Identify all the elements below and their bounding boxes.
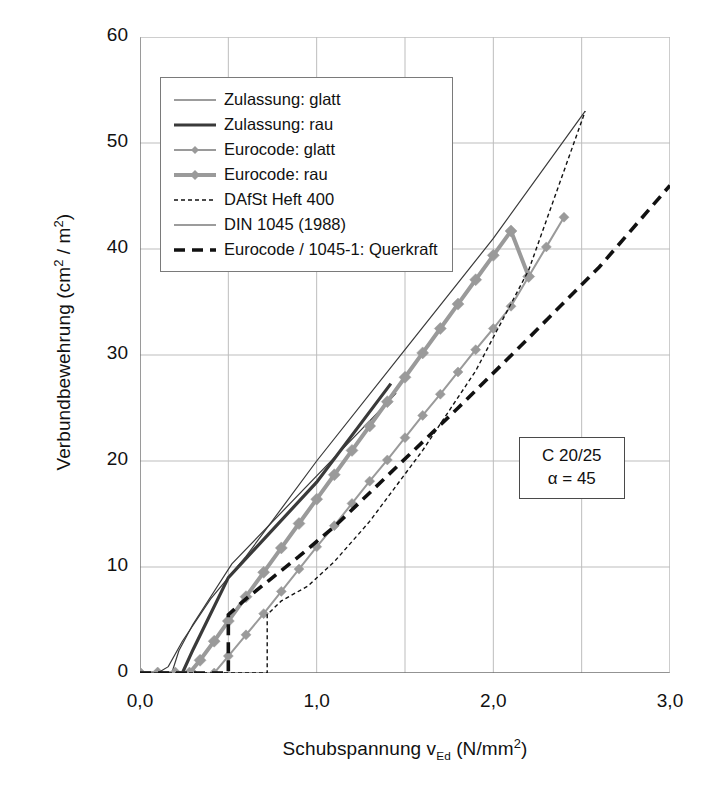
y-tick-label: 0 [92, 660, 128, 682]
annotation-line-2: α = 45 [542, 468, 602, 491]
legend-label: DAfSt Heft 400 [224, 190, 334, 209]
annotation-line-1: C 20/25 [542, 445, 602, 468]
legend-label: Eurocode: rau [224, 165, 328, 184]
legend-swatch-thin-solid-2 [172, 218, 218, 232]
x-tick-label: 0,0 [110, 690, 170, 712]
legend-swatch-thin-solid [172, 93, 218, 107]
y-tick-label: 40 [92, 236, 128, 258]
legend-item: DIN 1045 (1988) [172, 212, 438, 237]
y-tick-label: 20 [92, 448, 128, 470]
legend-label: Zulassung: glatt [224, 90, 340, 109]
y-tick-label: 30 [92, 342, 128, 364]
y-tick-label: 60 [92, 24, 128, 46]
series-2 [140, 212, 569, 673]
legend-label: DIN 1045 (1988) [224, 215, 346, 234]
chart-figure: Verbundbewehrung (cm2 / m2) 010203040506… [0, 0, 716, 792]
y-tick-label: 50 [92, 130, 128, 152]
legend-item: Zulassung: glatt [172, 87, 438, 112]
legend-item: Eurocode / 1045-1: Querkraft [172, 237, 438, 262]
y-axis-title-text: Verbundbewehrung (cm2 / m2) [53, 214, 74, 471]
legend-item: Eurocode: rau [172, 162, 438, 187]
legend-item: Eurocode: glatt [172, 137, 438, 162]
legend-item: DAfSt Heft 400 [172, 187, 438, 212]
legend-swatch-marker-thick [172, 168, 218, 182]
x-tick-label: 1,0 [287, 690, 347, 712]
x-tick-label: 3,0 [640, 690, 700, 712]
legend-label: Zulassung: rau [224, 115, 333, 134]
x-axis-title-text: Schubspannung vEd (N/mm2) [283, 738, 528, 759]
legend-swatch-thick-solid [172, 118, 218, 132]
legend-label: Eurocode / 1045-1: Querkraft [224, 240, 438, 259]
x-axis-title: Schubspannung vEd (N/mm2) [140, 736, 670, 762]
legend-swatch-bold-dash [172, 243, 218, 257]
series-3 [140, 225, 535, 673]
legend-swatch-marker-thin [172, 143, 218, 157]
y-tick-label: 10 [92, 554, 128, 576]
legend-item: Zulassung: rau [172, 112, 438, 137]
y-axis-tick-labels: 0102030405060 [86, 0, 128, 792]
x-tick-label: 2,0 [463, 690, 523, 712]
chart-legend: Zulassung: glattZulassung: rauEurocode: … [160, 77, 453, 272]
legend-label: Eurocode: glatt [224, 140, 335, 159]
y-axis-title: Verbundbewehrung (cm2 / m2) [51, 32, 75, 652]
legend-swatch-fine-dash [172, 193, 218, 207]
annotation-box: C 20/25 α = 45 [519, 437, 625, 499]
